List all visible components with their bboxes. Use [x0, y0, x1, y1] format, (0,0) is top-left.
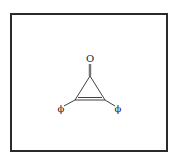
molecule-structure: O ϕ ϕ: [0, 0, 181, 165]
oxygen-atom-label: O: [86, 53, 94, 64]
left-phenyl-label: ϕ: [58, 103, 65, 114]
phenyl-bonds: [64, 100, 115, 106]
cyclopropene-ring: [75, 76, 105, 100]
carbonyl-double-bond: [89, 64, 90, 76]
right-phenyl-label: ϕ: [115, 103, 122, 114]
